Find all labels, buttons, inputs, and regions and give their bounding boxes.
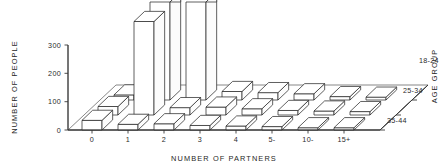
bar-18-24-2 bbox=[186, 0, 217, 100]
y-tick-label-200: 200 bbox=[48, 69, 61, 78]
x-tick-label-0: 0 bbox=[90, 135, 94, 144]
x-tick-label-1: 1 bbox=[126, 135, 130, 144]
bar-front-face bbox=[314, 111, 334, 115]
x-axis-title: NUMBER OF PARTNERS bbox=[171, 154, 277, 163]
bar-front-face bbox=[206, 107, 226, 115]
bar-25-34-1 bbox=[134, 11, 165, 115]
y-tick-label-100: 100 bbox=[48, 97, 61, 106]
bar-side-face bbox=[206, 0, 217, 2]
bars-layer bbox=[82, 0, 397, 130]
chart-canvas: 0 100 200 300 NUMBER OF PEOPLE 0 1 2 3 4… bbox=[0, 0, 448, 165]
bar-18-24-10- bbox=[330, 86, 361, 100]
bar-25-34-4 bbox=[242, 99, 273, 115]
bar-front-face bbox=[118, 124, 138, 130]
bar-25-34-2 bbox=[170, 97, 201, 115]
bar-35-44-5- bbox=[262, 116, 293, 130]
bar-25-34-3 bbox=[206, 97, 237, 115]
bar-front-face bbox=[330, 97, 350, 100]
bar-front-face bbox=[278, 110, 298, 115]
bar-35-44-3 bbox=[190, 115, 221, 130]
x-tick-label-15: 15+ bbox=[337, 135, 350, 144]
bar-side-face bbox=[170, 0, 181, 2]
bar-chart-3d: 0 100 200 300 NUMBER OF PEOPLE 0 1 2 3 4… bbox=[0, 0, 448, 165]
bar-front-face bbox=[242, 109, 262, 115]
bar-front-face bbox=[226, 126, 246, 130]
bar-25-34-5- bbox=[278, 100, 309, 115]
bar-front-face bbox=[134, 22, 154, 116]
x-tick-label-2: 2 bbox=[162, 135, 166, 144]
y-tick-label-0: 0 bbox=[57, 126, 61, 135]
bar-front-face bbox=[262, 127, 282, 130]
x-tick-label-5: 5- bbox=[269, 135, 276, 144]
bar-35-44-2 bbox=[154, 114, 185, 130]
bar-front-face bbox=[190, 125, 210, 130]
y-axis: 0 100 200 300 NUMBER OF PEOPLE bbox=[10, 40, 68, 134]
bar-35-44-15+ bbox=[334, 118, 365, 130]
bar-front-face bbox=[154, 124, 174, 130]
bar-35-44-4 bbox=[226, 116, 257, 130]
bar-side-face bbox=[206, 0, 217, 100]
bar-25-34-15+ bbox=[350, 101, 381, 115]
bar-18-24-5- bbox=[294, 84, 325, 100]
x-tick-label-10: 10- bbox=[302, 135, 314, 144]
z-tick-label-35-44: 35-44 bbox=[387, 116, 407, 125]
x-axis: 0 1 2 3 4 5- 10- 15+ NUMBER OF PARTNERS bbox=[68, 130, 380, 163]
bar-front-face bbox=[186, 2, 206, 100]
bar-front-face bbox=[366, 97, 386, 100]
bar-front-face bbox=[82, 120, 102, 130]
bar-35-44-0 bbox=[82, 110, 113, 130]
bar-side-face bbox=[170, 0, 181, 100]
bar-35-44-1 bbox=[118, 114, 149, 130]
y-axis-title: NUMBER OF PEOPLE bbox=[10, 40, 19, 134]
bar-side-face bbox=[154, 11, 165, 115]
bar-front-face bbox=[350, 112, 370, 115]
x-tick-label-3: 3 bbox=[198, 135, 202, 144]
bar-18-24-15+ bbox=[366, 87, 397, 100]
bar-front-face bbox=[294, 94, 314, 100]
y-tick-label-300: 300 bbox=[48, 41, 61, 50]
x-tick-label-4: 4 bbox=[234, 135, 238, 144]
z-axis-title: AGE GROUP bbox=[430, 49, 439, 104]
bar-25-34-10- bbox=[314, 101, 345, 115]
bar-35-44-10- bbox=[298, 118, 329, 130]
